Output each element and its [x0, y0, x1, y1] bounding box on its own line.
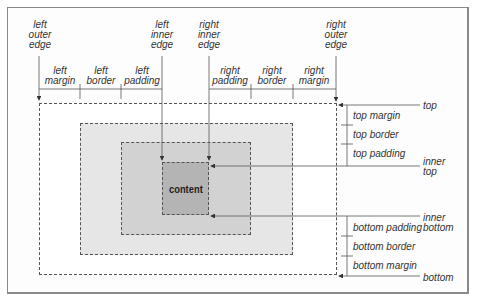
inner-bottom-label: inner bottom — [423, 213, 454, 233]
right-inner-edge-label: right inner edge — [197, 20, 221, 50]
dimension-lines — [0, 0, 477, 303]
bottom-margin-label: bottom margin — [353, 261, 417, 271]
left-padding-label: left padding — [124, 66, 160, 86]
bottom-edge-label: bottom — [423, 273, 454, 283]
bottom-padding-label: bottom padding — [353, 223, 422, 233]
top-edge-label: top — [423, 101, 437, 111]
left-border-label: left border — [85, 66, 117, 86]
right-outer-edge-label: right outer edge — [324, 20, 348, 50]
right-border-label: right border — [256, 66, 288, 86]
left-margin-label: left margin — [44, 66, 76, 86]
left-outer-edge-label: left outer edge — [28, 20, 52, 50]
right-margin-label: right margin — [298, 66, 330, 86]
left-inner-edge-label: left inner edge — [150, 20, 174, 50]
bottom-border-label: bottom border — [353, 242, 415, 252]
top-border-label: top border — [353, 130, 399, 140]
top-padding-label: top padding — [353, 149, 405, 159]
top-margin-label: top margin — [353, 111, 400, 121]
inner-top-label: inner top — [423, 157, 445, 177]
right-padding-label: right padding — [212, 66, 248, 86]
